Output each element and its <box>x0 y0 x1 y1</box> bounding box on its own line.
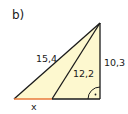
unknown-x-label: x <box>31 102 37 112</box>
vertical-leg-label: 10,3 <box>104 58 125 68</box>
right-angle-dot-icon <box>95 94 97 96</box>
hypotenuse-label: 15,4 <box>36 54 57 64</box>
inner-segment-label: 12,2 <box>73 69 94 79</box>
